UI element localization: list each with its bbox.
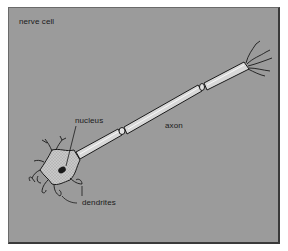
axon-terminals <box>246 41 272 76</box>
axon-label: axon <box>165 122 183 130</box>
soma <box>40 149 80 184</box>
dendrites-leader-line <box>62 186 82 203</box>
nucleus-label: nucleus <box>75 117 103 125</box>
axon <box>76 62 249 159</box>
dendrites-label: dendrites <box>82 199 116 207</box>
neuron-illustration <box>0 0 288 251</box>
figure-title: nerve cell <box>19 18 54 26</box>
